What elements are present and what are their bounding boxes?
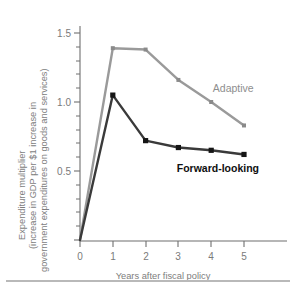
- x-tick-label-3: 3: [175, 251, 181, 262]
- footer-divider: [6, 280, 290, 282]
- chart-figure: Expenditure multiplier (increase in GDP …: [0, 0, 296, 291]
- x-tick-label-4: 4: [208, 251, 214, 262]
- x-tick-label-0: 0: [77, 251, 83, 262]
- y-tick-label-0.5: 0.5: [57, 166, 71, 177]
- data-point-marker: [209, 100, 213, 104]
- y-axis-title-line3: government expenditures on goods and ser…: [39, 68, 49, 272]
- x-axis-tick-labels: 0 1 2 3 4 5: [77, 251, 247, 262]
- x-tick-label-2: 2: [143, 251, 149, 262]
- data-point-marker: [110, 93, 115, 98]
- data-point-marker: [242, 123, 246, 127]
- y-axis-title-line1: Expenditure multiplier: [17, 151, 27, 240]
- data-point-marker: [241, 152, 246, 157]
- x-tick-label-5: 5: [241, 251, 247, 262]
- series-label-adaptive: Adaptive: [213, 82, 254, 94]
- y-tick-label-1.0: 1.0: [57, 97, 71, 108]
- y-tick-label-1.5: 1.5: [57, 28, 71, 39]
- y-axis-minor-ticks: [76, 47, 80, 226]
- data-point-marker: [143, 138, 148, 143]
- series-label-forward-looking: Forward-looking: [177, 162, 259, 174]
- y-axis-title-group: Expenditure multiplier (increase in GDP …: [17, 68, 49, 272]
- x-tick-label-1: 1: [110, 251, 116, 262]
- data-point-marker: [176, 78, 180, 82]
- y-axis-tick-labels: 1.5 1.0 0.5: [57, 28, 71, 177]
- expenditure-multiplier-line-chart: Expenditure multiplier (increase in GDP …: [0, 0, 296, 291]
- y-axis-ticks: [74, 33, 80, 240]
- data-point-marker: [209, 148, 214, 153]
- series-layer: [80, 46, 247, 240]
- data-point-marker: [111, 46, 115, 50]
- x-axis-ticks: [80, 241, 244, 247]
- y-axis-title-line2: (increase in GDP per $1 increase in: [28, 102, 38, 249]
- data-point-marker: [144, 48, 148, 52]
- data-point-marker: [176, 145, 181, 150]
